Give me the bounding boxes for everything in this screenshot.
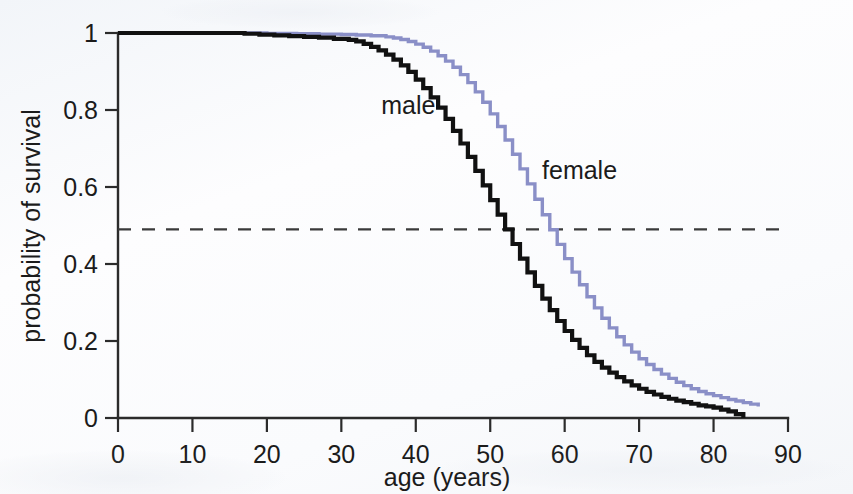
data-series-group (118, 33, 758, 418)
x-tick-label-30: 30 (327, 440, 355, 468)
annotation-male: male (381, 91, 435, 119)
y-axis-ticks (105, 33, 118, 418)
y-axis-title: probability of survival (17, 109, 45, 342)
survival-curve-figure: 00.20.40.60.81 0102030405060708090 malef… (0, 0, 853, 494)
y-tick-label-1: 1 (84, 19, 98, 47)
y-tick-label-0.6: 0.6 (63, 173, 98, 201)
x-axis-title: age (years) (384, 463, 510, 491)
y-tick-label-0.2: 0.2 (63, 327, 98, 355)
x-tick-label-60: 60 (551, 440, 579, 468)
x-tick-label-0: 0 (111, 440, 125, 468)
x-tick-label-20: 20 (253, 440, 281, 468)
y-axis-tick-labels: 00.20.40.60.81 (63, 19, 98, 432)
series-curve-female (118, 33, 758, 406)
survival-plot: 00.20.40.60.81 0102030405060708090 malef… (0, 0, 853, 494)
y-tick-label-0.4: 0.4 (63, 250, 98, 278)
axes-group (118, 33, 788, 418)
series-annotations: malefemale (381, 91, 617, 184)
x-tick-label-80: 80 (700, 440, 728, 468)
y-tick-label-0.8: 0.8 (63, 96, 98, 124)
x-tick-label-70: 70 (625, 440, 653, 468)
x-tick-label-10: 10 (179, 440, 207, 468)
annotation-female: female (542, 156, 617, 184)
y-tick-label-0: 0 (84, 404, 98, 432)
x-tick-label-90: 90 (774, 440, 802, 468)
x-axis-ticks (118, 418, 788, 432)
